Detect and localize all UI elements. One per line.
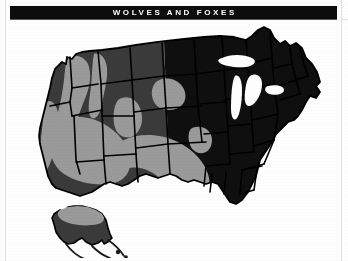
scanned-page: WOLVES AND FOXES [0, 0, 348, 261]
page-title: WOLVES AND FOXES [110, 9, 237, 17]
alaska-inset [52, 205, 128, 258]
lake-ontario-water [265, 85, 284, 95]
alaska-island-dot [116, 250, 120, 254]
title-banner: WOLVES AND FOXES [10, 6, 337, 19]
us-range-map [6, 24, 342, 258]
map-figure [6, 24, 342, 258]
page-guide-top [341, 19, 348, 20]
